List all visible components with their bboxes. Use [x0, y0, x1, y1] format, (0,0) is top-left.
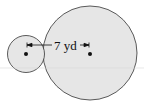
small-center-dot [24, 52, 28, 56]
large-center-dot [88, 52, 92, 56]
dimension-label: 7 yd [54, 38, 77, 53]
diagram-canvas: 7 yd [0, 0, 144, 106]
